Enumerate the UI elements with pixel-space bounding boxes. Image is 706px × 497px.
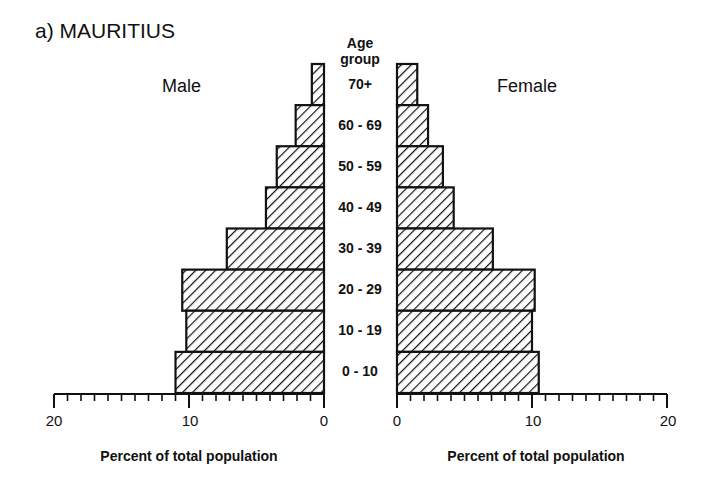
age-group-label: 50 - 59 xyxy=(324,158,396,174)
female-bar xyxy=(397,270,535,311)
female-bar xyxy=(397,352,539,393)
age-group-label: 10 - 19 xyxy=(324,322,396,338)
left-axis-title: Percent of total population xyxy=(100,448,277,464)
female-bar xyxy=(397,105,428,146)
left-x-axis xyxy=(54,394,324,408)
female-bar xyxy=(397,311,532,352)
female-bar xyxy=(397,64,417,105)
male-bar xyxy=(277,146,324,187)
right-tick-0: 0 xyxy=(393,412,401,429)
left-tick-20: 20 xyxy=(46,412,63,429)
male-bar xyxy=(296,105,324,146)
left-tick-10: 10 xyxy=(182,412,199,429)
age-group-label: 70+ xyxy=(324,76,396,92)
female-bar xyxy=(397,187,454,228)
female-bars xyxy=(397,64,539,393)
male-bar xyxy=(227,229,324,270)
age-group-label: 0 - 10 xyxy=(324,363,396,379)
right-tick-20: 20 xyxy=(660,412,677,429)
age-group-label: 30 - 39 xyxy=(324,240,396,256)
female-bar xyxy=(397,146,443,187)
male-bar xyxy=(312,64,324,105)
age-group-label: 60 - 69 xyxy=(324,117,396,133)
female-bar xyxy=(397,229,493,270)
age-group-label: 20 - 29 xyxy=(324,281,396,297)
right-axis-title: Percent of total population xyxy=(447,448,624,464)
male-bar xyxy=(186,311,324,352)
male-bars xyxy=(176,64,325,393)
male-bar xyxy=(182,270,324,311)
left-tick-0: 0 xyxy=(320,412,328,429)
male-bar xyxy=(176,352,325,393)
right-tick-10: 10 xyxy=(525,412,542,429)
male-bar xyxy=(266,187,324,228)
age-group-label: 40 - 49 xyxy=(324,199,396,215)
right-x-axis xyxy=(397,394,667,408)
